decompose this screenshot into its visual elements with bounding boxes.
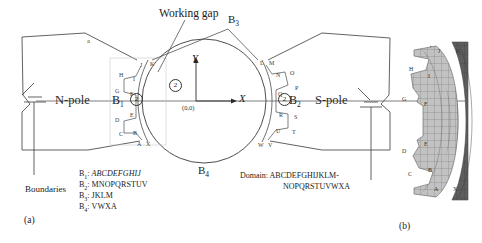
node-label-b: E [424, 141, 428, 147]
domain-line-1: Domain: ABCDEFGHIJKLM- [240, 172, 339, 180]
node-label-a: J [140, 62, 142, 68]
node-label-a: Q [278, 91, 282, 97]
region-marker-center: 2 [169, 79, 182, 92]
boundary-row: B3: JKLM [79, 191, 148, 202]
boundary-b3-label: B3 [228, 14, 239, 28]
node-label-a: A [137, 141, 141, 147]
node-label-a: V [268, 142, 272, 148]
n-pole-label: N-pole [55, 94, 90, 107]
caption-a: (a) [24, 216, 35, 226]
boundary-row-subscript: 2 [84, 185, 87, 191]
working-gap-leader [158, 20, 185, 72]
boundary-b4-label: B4 [198, 165, 209, 179]
mesh-figure [411, 42, 472, 200]
node-label-b: J [438, 48, 440, 54]
domain-title: Domain: [240, 171, 268, 180]
node-label-a: U [276, 128, 280, 134]
node-label-b: H [409, 66, 413, 72]
b4-subscript: 4 [205, 170, 209, 179]
boundary-row-subscript: 1 [84, 174, 87, 180]
boundary-row-subscript: 4 [84, 207, 87, 213]
node-label-a: P [295, 85, 298, 91]
coordinate-axes [193, 57, 237, 104]
node-label-a: K [150, 61, 154, 67]
domain-line-2: NOPQRSTUVWXA [283, 183, 350, 191]
node-label-a: F [130, 91, 133, 97]
boundary-row-sequence: VWXA [92, 202, 117, 211]
node-label-b: F [424, 101, 427, 107]
dimension-a-label: a [87, 38, 90, 45]
n-pole-terminal-icon [22, 83, 46, 175]
boundary-row-sequence: MNOPQRSTUV [92, 180, 148, 189]
node-label-a: O [290, 70, 294, 76]
mesh-light-region [411, 46, 458, 197]
node-label-a: M [269, 60, 274, 66]
node-label-a: L [260, 60, 264, 66]
s-pole-outline [268, 33, 390, 150]
node-label-a: X [146, 141, 150, 147]
node-label-a: G [115, 88, 119, 94]
node-label-a: B [133, 130, 137, 136]
boundary-b2-label: B2 [289, 94, 301, 109]
node-label-a: D [115, 117, 119, 123]
x-axis-label: X [239, 94, 245, 105]
node-label-b: A [434, 186, 438, 192]
boundary-row-sequence: ABCDEFGHIJ [92, 169, 141, 178]
s-pole-label: S-pole [315, 94, 348, 107]
boundary-row-subscript: 3 [84, 196, 87, 202]
node-label-a: R [279, 112, 283, 118]
boundary-row: B4: VWXA [79, 202, 148, 213]
node-label-b: C [408, 171, 412, 177]
figure-vector-graphics [0, 0, 482, 243]
node-label-a: I [133, 76, 135, 82]
s-pole-terminal-icon [358, 88, 382, 180]
node-label-b: K [456, 48, 460, 54]
node-label-b: B [428, 167, 432, 173]
node-label-a: T [292, 129, 296, 135]
node-label-b: I [428, 73, 430, 79]
boundary-row: B2: MNOPQRSTUV [79, 180, 148, 191]
figure-container: Working gap B3 B4 B1 B2 2 2 2 N-pole S-p… [0, 0, 482, 243]
node-label-a: N [276, 72, 280, 78]
domain-sequence-line1: ABCDEFGHIJKLM- [270, 171, 339, 180]
origin-label: (0,0) [182, 105, 194, 112]
node-label-a: C [119, 131, 123, 137]
boundary-row: B1: ABCDEFGHIJ [79, 169, 148, 180]
boundary-b1-label: B1 [112, 94, 124, 109]
y-axis-label: Y [192, 54, 198, 65]
node-label-a: H [119, 72, 123, 78]
boundaries-list: B1: ABCDEFGHIJB2: MNOPQRSTUVB3: JKLMB4: … [79, 169, 148, 213]
node-label-b: G [402, 96, 406, 102]
b3-subscript: 3 [235, 19, 239, 28]
caption-b: (b) [399, 222, 410, 232]
boundaries-title: Boundaries [25, 185, 66, 194]
b3-leader [152, 29, 258, 60]
working-gap-label: Working gap [159, 8, 218, 20]
b1-subscript: 1 [120, 100, 124, 109]
node-label-a: S [294, 114, 297, 120]
node-label-b: D [402, 148, 406, 154]
b2-subscript: 2 [297, 100, 301, 109]
node-label-a: E [130, 112, 134, 118]
node-label-a: W [258, 142, 264, 148]
boundary-row-sequence: JKLM [92, 191, 113, 200]
b1-letter: B [112, 93, 120, 107]
node-label-b: X [453, 186, 457, 192]
